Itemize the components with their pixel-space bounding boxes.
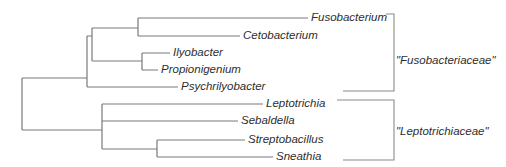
leptotrichiaceae-node bbox=[102, 104, 263, 149]
taxon-label-streptobacillus: Streptobacillus bbox=[248, 134, 323, 146]
taxon-label-cetobacterium: Cetobacterium bbox=[243, 30, 318, 42]
taxon-label-leptotrichia: Leptotrichia bbox=[266, 98, 325, 110]
taxon-label-fusobacterium: Fusobacterium bbox=[311, 12, 387, 24]
taxon-label-ilyobacter: Ilyobacter bbox=[173, 47, 223, 59]
leptotrichiaceae-bracket bbox=[337, 100, 394, 160]
group-label-fusobacteriaceae: "Fusobacteriaceae" bbox=[396, 55, 496, 67]
fusobacteriaceae-bracket bbox=[343, 14, 394, 91]
taxon-label-sneathia: Sneathia bbox=[276, 151, 321, 163]
group-label-leptotrichiaceae: "Leptotrichiaceae" bbox=[396, 126, 489, 138]
root-branch bbox=[22, 78, 102, 130]
taxon-label-sebaldella: Sebaldella bbox=[241, 115, 295, 127]
taxon-label-propionigenium: Propionigenium bbox=[161, 64, 241, 76]
taxon-label-psychrilyobacter: Psychrilyobacter bbox=[181, 81, 265, 93]
inner-fuso-node bbox=[92, 28, 142, 61]
